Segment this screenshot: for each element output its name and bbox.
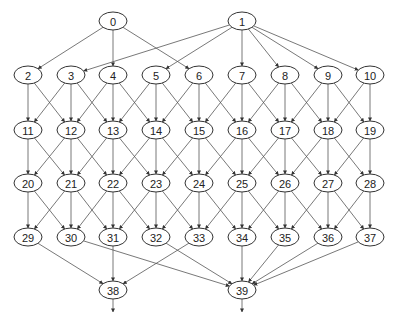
node-label: 25 (236, 178, 248, 190)
node-label: 32 (150, 232, 162, 244)
node-label: 28 (364, 178, 376, 190)
edge-29-to-38 (38, 243, 103, 283)
node-36: 36 (314, 228, 342, 246)
node-label: 8 (282, 70, 288, 82)
node-label: 9 (325, 70, 331, 82)
node-27: 27 (314, 174, 342, 192)
node-label: 30 (65, 232, 77, 244)
node-2: 2 (14, 66, 42, 84)
node-label: 13 (107, 125, 119, 137)
node-6: 6 (185, 66, 213, 84)
exit-arrows-layer (113, 299, 242, 312)
node-label: 10 (364, 70, 376, 82)
node-label: 18 (322, 125, 334, 137)
node-label: 14 (150, 125, 162, 137)
node-31: 31 (99, 228, 127, 246)
node-14: 14 (142, 121, 170, 139)
node-label: 17 (279, 125, 291, 137)
node-label: 33 (193, 232, 205, 244)
node-8: 8 (271, 66, 299, 84)
node-33: 33 (185, 228, 213, 246)
node-label: 35 (279, 232, 291, 244)
dag-diagram: 0123456789101112131415161718192021222324… (0, 0, 393, 320)
node-4: 4 (99, 66, 127, 84)
node-3: 3 (57, 66, 85, 84)
node-24: 24 (185, 174, 213, 192)
node-15: 15 (185, 121, 213, 139)
node-label: 21 (65, 178, 77, 190)
edge-1-to-5 (166, 27, 232, 68)
edge-32-to-39 (166, 243, 232, 284)
node-label: 29 (22, 232, 34, 244)
node-10: 10 (356, 66, 384, 84)
node-17: 17 (271, 121, 299, 139)
node-19: 19 (356, 121, 384, 139)
node-label: 22 (107, 178, 119, 190)
node-label: 37 (364, 232, 376, 244)
node-label: 38 (107, 285, 119, 297)
node-5: 5 (142, 66, 170, 84)
node-label: 36 (322, 232, 334, 244)
node-12: 12 (57, 121, 85, 139)
node-label: 20 (22, 178, 34, 190)
edge-37-to-39 (254, 242, 358, 285)
node-38: 38 (99, 281, 127, 299)
node-0: 0 (99, 12, 127, 30)
node-label: 4 (110, 70, 116, 82)
node-label: 7 (239, 70, 245, 82)
edge-0-to-2 (38, 27, 103, 68)
node-11: 11 (14, 121, 42, 139)
node-9: 9 (314, 66, 342, 84)
node-37: 37 (356, 228, 384, 246)
edge-36-to-39 (252, 243, 318, 284)
node-label: 16 (236, 125, 248, 137)
node-label: 12 (65, 125, 77, 137)
node-18: 18 (314, 121, 342, 139)
edge-30-to-39 (84, 241, 230, 286)
node-39: 39 (228, 281, 256, 299)
node-28: 28 (356, 174, 384, 192)
node-label: 6 (196, 70, 202, 82)
node-label: 24 (193, 178, 205, 190)
node-1: 1 (228, 12, 256, 30)
node-16: 16 (228, 121, 256, 139)
node-label: 34 (236, 232, 248, 244)
edge-1-to-9 (252, 27, 318, 68)
node-23: 23 (142, 174, 170, 192)
node-label: 5 (153, 70, 159, 82)
edge-1-to-3 (84, 25, 230, 71)
node-label: 31 (107, 232, 119, 244)
node-34: 34 (228, 228, 256, 246)
node-20: 20 (14, 174, 42, 192)
node-label: 23 (150, 178, 162, 190)
node-label: 19 (364, 125, 376, 137)
node-13: 13 (99, 121, 127, 139)
node-label: 2 (25, 70, 31, 82)
node-26: 26 (271, 174, 299, 192)
node-7: 7 (228, 66, 256, 84)
node-22: 22 (99, 174, 127, 192)
node-25: 25 (228, 174, 256, 192)
node-label: 1 (239, 16, 245, 28)
edges-layer (28, 25, 370, 286)
node-21: 21 (57, 174, 85, 192)
node-label: 3 (68, 70, 74, 82)
node-32: 32 (142, 228, 170, 246)
node-label: 0 (110, 16, 116, 28)
node-label: 26 (279, 178, 291, 190)
edge-1-to-10 (254, 26, 359, 70)
node-label: 15 (193, 125, 205, 137)
node-29: 29 (14, 228, 42, 246)
node-label: 39 (236, 285, 248, 297)
node-label: 27 (322, 178, 334, 190)
node-label: 11 (22, 125, 33, 137)
node-30: 30 (57, 228, 85, 246)
node-35: 35 (271, 228, 299, 246)
